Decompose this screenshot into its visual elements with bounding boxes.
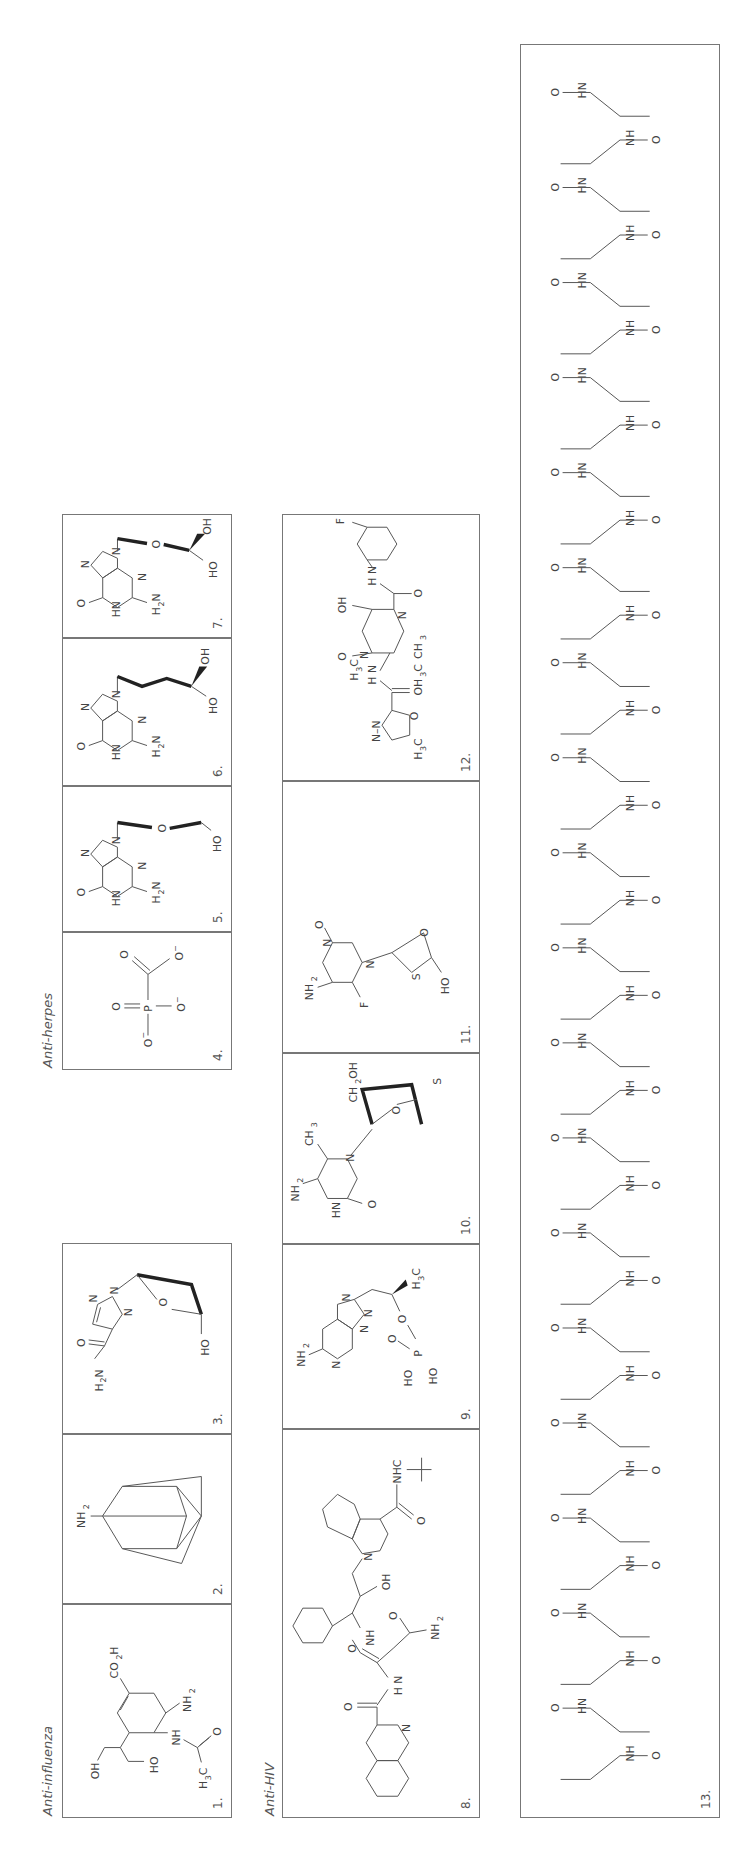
compound-number: 3.	[211, 1414, 225, 1425]
svg-text:HN: HN	[110, 744, 123, 760]
svg-text:OH: OH	[201, 518, 214, 535]
svg-text:OH: OH	[380, 1574, 393, 1591]
svg-text:N: N	[93, 1369, 106, 1377]
compound-number: 10.	[459, 1216, 473, 1235]
svg-text:NH: NH	[624, 1270, 637, 1286]
compound-number: 4.	[211, 1050, 225, 1061]
figure-canvas: Anti-influenza Anti-herpes Anti-HIV CO2H…	[0, 0, 747, 1866]
svg-text:N: N	[136, 862, 149, 870]
compound-7-panel: HN N N N O H2N O OH HO 7.	[62, 514, 232, 638]
compound-2-structure: NH2	[63, 1435, 231, 1603]
svg-text:O: O	[549, 658, 562, 667]
svg-text:N: N	[340, 1293, 353, 1301]
svg-text:−: −	[173, 996, 182, 1003]
svg-text:O: O	[549, 1418, 562, 1427]
svg-text:S: S	[410, 973, 423, 980]
svg-text:OH: OH	[336, 597, 349, 614]
svg-text:N: N	[136, 573, 149, 581]
svg-text:HO: HO	[402, 1370, 415, 1387]
svg-text:O: O	[650, 611, 663, 620]
svg-text:O: O	[342, 1703, 355, 1712]
compound-11-structure: N N O NH2 F O S HO	[283, 782, 479, 1052]
svg-text:O: O	[650, 516, 663, 525]
svg-text:O: O	[75, 1338, 88, 1347]
svg-text:HN: HN	[576, 1508, 589, 1524]
svg-text:N: N	[136, 716, 149, 724]
svg-text:O: O	[549, 1133, 562, 1142]
svg-text:C: C	[348, 659, 361, 667]
svg-text:O: O	[173, 952, 186, 961]
svg-text:NH: NH	[181, 1696, 194, 1712]
compound-5-panel: HN N N N O H2N O HO 5.	[62, 786, 232, 932]
svg-text:H: H	[108, 1646, 121, 1654]
svg-text:O: O	[150, 540, 163, 549]
svg-text:HN: HN	[576, 937, 589, 953]
svg-text:O: O	[386, 1334, 399, 1343]
compound-1-structure: CO2H OH HO NH NH2 O H3C	[63, 1605, 231, 1817]
svg-text:O: O	[650, 1371, 663, 1380]
svg-text:H: H	[93, 1383, 106, 1391]
svg-text:NH: NH	[624, 890, 637, 906]
group-label-anti-herpes: Anti-herpes	[40, 993, 55, 1068]
svg-text:NH: NH	[624, 415, 637, 431]
compound-number: 2.	[211, 1584, 225, 1595]
svg-text:−: −	[171, 945, 180, 952]
svg-text:NH: NH	[624, 1460, 637, 1476]
svg-text:NH: NH	[624, 225, 637, 241]
compound-2-panel: NH2 2.	[62, 1434, 232, 1604]
svg-text:NH: NH	[624, 700, 637, 716]
svg-text:2: 2	[436, 1616, 445, 1621]
svg-text:O: O	[549, 1704, 562, 1713]
svg-text:N: N	[358, 1325, 371, 1333]
group-label-anti-influenza: Anti-influenza	[40, 1726, 55, 1816]
svg-text:HO: HO	[427, 1368, 440, 1385]
svg-text:CO: CO	[108, 1662, 121, 1678]
svg-text:NH: NH	[624, 510, 637, 526]
svg-text:N: N	[87, 1294, 100, 1302]
svg-text:O: O	[650, 1181, 663, 1190]
svg-text:N: N	[122, 1308, 135, 1316]
svg-text:HN: HN	[576, 557, 589, 573]
compound-number: 5.	[211, 912, 225, 923]
compound-4-panel: O− P O O− O O− 4.	[62, 932, 232, 1070]
svg-text:H N: H N	[366, 566, 379, 586]
compound-5-structure: HN N N N O H2N O HO	[63, 787, 231, 931]
svg-text:O: O	[549, 1513, 562, 1522]
svg-text:NH: NH	[303, 984, 316, 1000]
svg-text:O: O	[650, 1751, 663, 1760]
svg-text:HN: HN	[576, 1032, 589, 1048]
svg-text:NH: NH	[624, 605, 637, 621]
compound-number: 9.	[459, 1409, 473, 1420]
svg-text:H N: H N	[366, 665, 379, 685]
svg-text:O: O	[650, 896, 663, 905]
compound-8-structure: N O H N O O NH2 NH OH	[283, 1430, 479, 1817]
svg-text:H: H	[410, 1281, 423, 1289]
svg-text:O: O	[396, 1315, 409, 1324]
compound-9-structure: N N N N NH2 H3C O P O HO HO	[283, 1245, 479, 1428]
svg-text:OH: OH	[347, 1062, 360, 1079]
svg-text:H N: H N	[392, 1675, 405, 1695]
svg-text:HO: HO	[207, 697, 220, 714]
compound-3-panel: N N N O H2N O HO 3.	[62, 1243, 232, 1434]
svg-text:O: O	[549, 1038, 562, 1047]
svg-text:O: O	[75, 599, 88, 608]
svg-text:N: N	[330, 1361, 343, 1369]
svg-text:O: O	[650, 230, 663, 239]
svg-text:O: O	[549, 1323, 562, 1332]
svg-text:O: O	[650, 421, 663, 430]
svg-text:HN: HN	[576, 1603, 589, 1619]
compound-1-panel: CO2H OH HO NH NH2 O H3C 1.	[62, 1604, 232, 1818]
svg-text:O: O	[549, 1609, 562, 1618]
svg-text:N: N	[321, 939, 334, 947]
svg-text:P: P	[412, 1350, 425, 1357]
svg-text:O: O	[157, 1298, 170, 1307]
svg-text:NH: NH	[295, 1350, 308, 1366]
svg-text:O: O	[175, 1003, 188, 1012]
svg-text:O: O	[650, 1561, 663, 1570]
svg-text:3: 3	[419, 635, 428, 640]
svg-text:HN: HN	[576, 842, 589, 858]
svg-text:H: H	[348, 672, 361, 680]
svg-text:O: O	[211, 1727, 224, 1736]
svg-text:HN: HN	[576, 1318, 589, 1334]
group-label-anti-hiv: Anti-HIV	[262, 1763, 277, 1816]
